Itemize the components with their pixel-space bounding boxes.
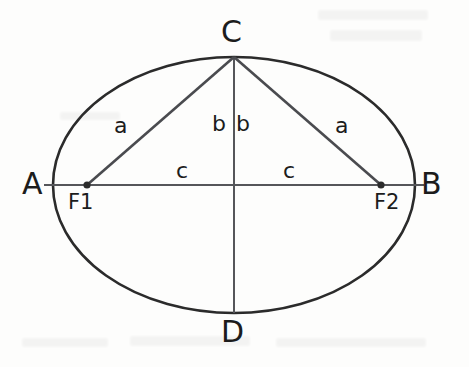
segment-label-a-left: a <box>114 115 127 137</box>
segment-label-b-left: b <box>212 113 226 135</box>
ellipse-figure-svg <box>0 0 469 367</box>
focus-point-f1 <box>83 181 90 188</box>
vertex-label-a: A <box>22 169 43 199</box>
ellipse-diagram: A B C D F1 F2 a b b a c c <box>0 0 469 367</box>
focus-point-f2 <box>377 181 384 188</box>
vertex-label-b: B <box>421 169 442 199</box>
focus-label-f2: F2 <box>374 192 399 213</box>
vertex-label-c: C <box>221 17 242 47</box>
focus-label-f1: F1 <box>68 192 93 213</box>
segment-label-c-left: c <box>176 160 188 182</box>
segment-label-b-right: b <box>236 113 250 135</box>
segment-label-c-right: c <box>283 160 295 182</box>
vertex-label-d: D <box>221 317 244 347</box>
segment-label-a-right: a <box>335 115 348 137</box>
focal-radius-f2-c <box>234 57 381 185</box>
